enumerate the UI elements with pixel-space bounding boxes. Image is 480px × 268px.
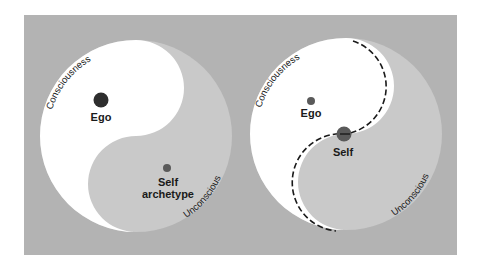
ego-label: Ego <box>91 111 112 123</box>
self-label: Self <box>333 146 354 158</box>
ego-dot <box>307 97 315 105</box>
left-diagram: Ego Self archetype Consciousness Unconsc… <box>40 40 232 232</box>
self-label: Self <box>158 176 179 188</box>
yin-yang-diagrams: Ego Self archetype Consciousness Unconsc… <box>0 0 480 268</box>
ego-label: Ego <box>301 107 322 119</box>
self-archetype-dot <box>163 164 171 172</box>
archetype-label: archetype <box>142 188 194 200</box>
right-diagram: Ego Self Consciousness Unconscious <box>250 38 442 231</box>
ego-dot <box>94 93 109 108</box>
